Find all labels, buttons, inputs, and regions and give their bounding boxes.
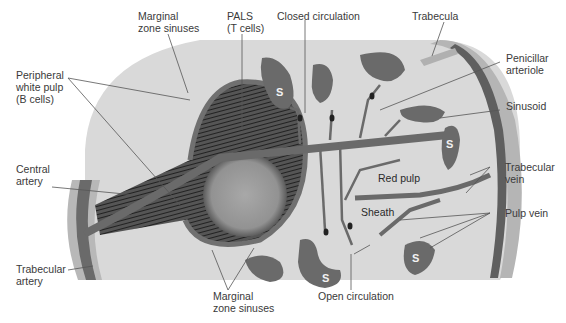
label-trabecular-artery: Trabecular artery [16,263,66,287]
label-trabecula: Trabecula [412,10,458,22]
label-sheath: Sheath [361,206,394,218]
label-marginal-zone-sinuses-bottom: Marginal zone sinuses [213,290,274,314]
svg-text:S: S [276,86,283,98]
label-trabecular-vein: Trabecular vein [505,161,555,185]
label-red-pulp: Red pulp [378,172,420,184]
label-central-artery: Central artery [16,163,50,187]
label-marginal-zone-sinuses-top: Marginal zone sinuses [138,10,199,34]
svg-text:S: S [412,252,419,264]
svg-text:S: S [446,138,453,150]
label-peripheral-white-pulp: Peripheral white pulp (B cells) [16,69,64,105]
germinal-center [203,153,287,237]
label-penicillar-arteriole: Penicillar arteriole [506,52,549,76]
spleen-diagram: S S S S Marginal zone sinuses PALS (T ce… [0,0,566,323]
label-pals: PALS (T cells) [227,10,264,34]
label-closed-circulation: Closed circulation [277,10,360,22]
label-pulp-vein: Pulp vein [505,207,548,219]
svg-text:S: S [322,272,329,284]
diagram-artwork: S S S S [0,0,566,323]
label-open-circulation: Open circulation [318,290,394,302]
label-sinusoid: Sinusoid [506,100,546,112]
